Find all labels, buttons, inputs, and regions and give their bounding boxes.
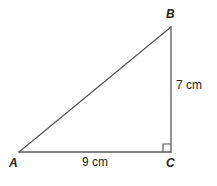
triangle-side-ab [19, 27, 171, 152]
vertex-label-b: B [166, 8, 175, 20]
geometry-figure: A B C 7 cm 9 cm [0, 0, 217, 186]
side-length-label-ac: 9 cm [82, 156, 108, 168]
vertex-label-a: A [9, 157, 18, 169]
side-length-label-bc: 7 cm [176, 79, 202, 91]
triangle-diagram [0, 0, 217, 186]
right-angle-marker-icon [163, 144, 171, 152]
vertex-label-c: C [166, 157, 175, 169]
